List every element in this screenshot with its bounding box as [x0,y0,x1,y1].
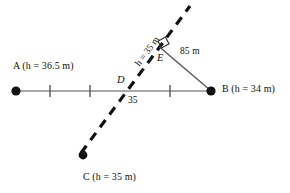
label-point-e: E [157,52,164,63]
figure-canvas [0,0,290,193]
label-segment-be-length: 85 m [180,47,200,57]
label-point-a: A (h = 36.5 m) [13,61,74,72]
label-point-b: B (h = 34 m) [222,84,275,95]
label-point-d: D [117,74,125,85]
point-dot-a [11,86,20,95]
geometry-figure: A (h = 36.5 m) B (h = 34 m) C (h = 35 m)… [0,0,290,193]
label-point-c: C (h = 35 m) [83,172,136,183]
dashed-contour-line-cde [81,6,190,153]
point-dot-b [206,86,215,95]
label-angle-at-d: 35 [128,96,138,106]
point-dot-c [79,151,88,160]
